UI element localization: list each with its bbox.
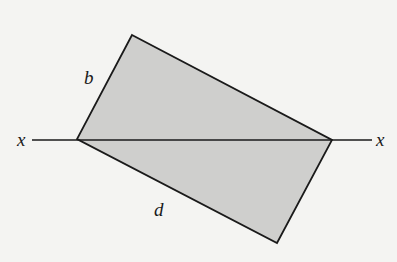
side-label-b: b [84, 68, 94, 87]
rectangle-diagram [0, 0, 397, 262]
axis-label-left: x [17, 130, 25, 149]
diagram-canvas: x x b d [0, 0, 397, 262]
axis-label-right: x [376, 130, 384, 149]
rectangle-shape [77, 35, 332, 243]
side-label-d: d [154, 200, 164, 219]
